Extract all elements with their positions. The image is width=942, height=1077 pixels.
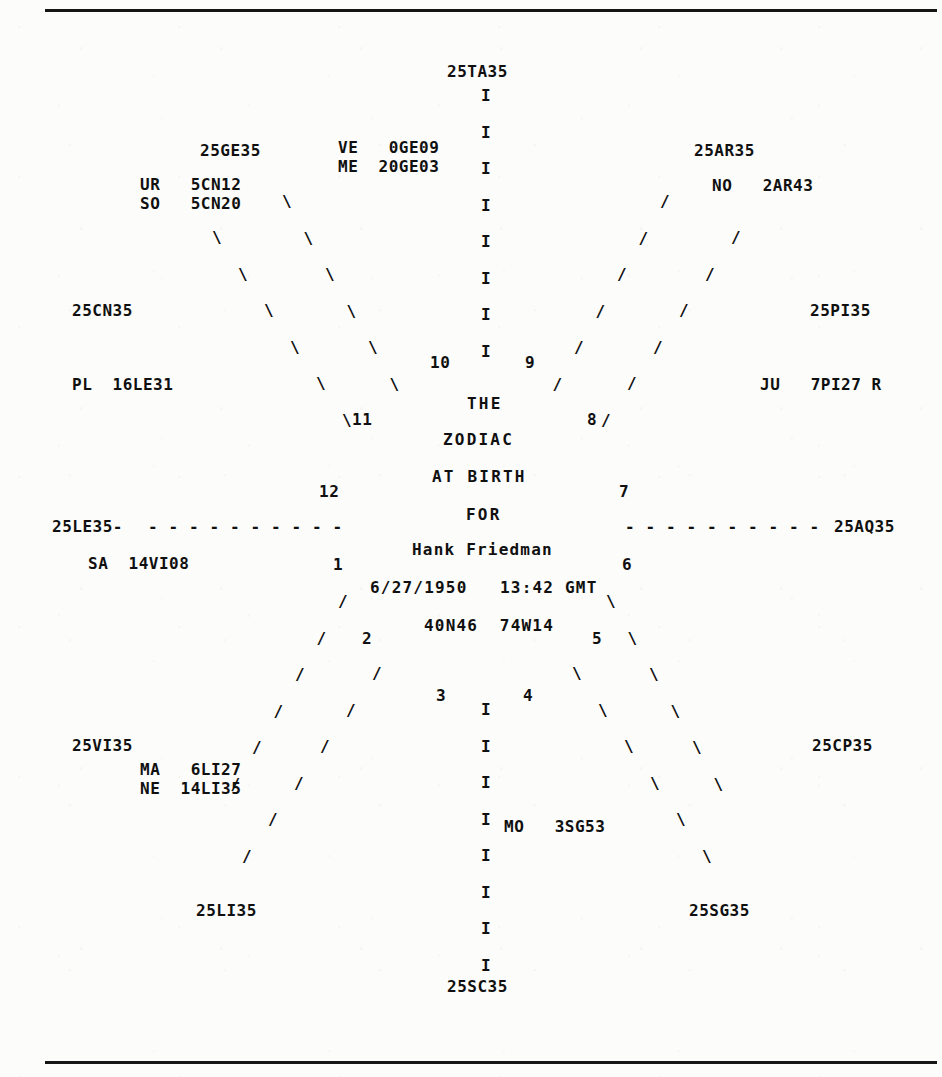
planet-label-sun: SO 5CN20 — [140, 196, 241, 212]
axis-glyph-dash-left: - — [148, 519, 158, 535]
ray-glyph-ul-inner: \ — [342, 413, 352, 429]
ray-glyph-ur-inner: / — [705, 267, 715, 283]
cusp-label-ic: 25SC35 — [447, 979, 508, 995]
ray-glyph-lr-outer: \ — [624, 739, 634, 755]
ray-glyph-ur-inner: / — [679, 303, 689, 319]
axis-glyph-vertical-bottom: I — [481, 885, 491, 901]
ray-glyph-ul-inner: \ — [212, 230, 222, 246]
planet-label-moon: MO 3SG53 — [504, 819, 605, 835]
ray-glyph-ll-outer: / — [320, 739, 330, 755]
ray-glyph-lr-inner: \ — [671, 704, 681, 720]
ray-glyph-ul-inner: \ — [290, 340, 300, 356]
planet-label-pluto: PL 16LE31 — [72, 377, 173, 393]
house-number-6: 6 — [622, 557, 632, 573]
ray-glyph-ur-outer: / — [617, 267, 627, 283]
ray-glyph-ur-inner: / — [601, 413, 611, 429]
ray-glyph-ll-outer: / — [346, 703, 356, 719]
ray-glyph-lr-outer: \ — [650, 776, 660, 792]
cusp-label-h11: 25GE35 — [200, 143, 261, 159]
planet-label-uranus: UR 5CN12 — [140, 177, 241, 193]
axis-glyph-dash-right: - — [707, 519, 717, 535]
ray-glyph-ul-inner: \ — [238, 267, 248, 283]
axis-glyph-vertical-bottom: I — [481, 702, 491, 718]
bottom-horizontal-rule — [45, 1061, 937, 1064]
axis-glyph-dash-right: - — [789, 519, 799, 535]
ray-glyph-lr-outer: \ — [572, 666, 582, 682]
axis-glyph-vertical-bottom: I — [481, 775, 491, 791]
cusp-label-h9: 25AR35 — [694, 143, 755, 159]
house-number-8: 8 — [587, 412, 597, 428]
ray-glyph-ul-outer: \ — [304, 231, 314, 247]
center-line-for: FOR — [466, 507, 502, 523]
center-birth-datetime: 6/27/1950 13:42 GMT — [370, 580, 598, 596]
ray-glyph-ll-inner: / — [274, 704, 284, 720]
ray-glyph-lr-outer: \ — [702, 849, 712, 865]
ray-glyph-ll-outer: / — [294, 776, 304, 792]
axis-glyph-vertical-top: I — [481, 234, 491, 250]
axis-glyph-vertical-top: I — [481, 125, 491, 141]
top-horizontal-rule — [45, 9, 937, 12]
planet-label-nnode: NO 2AR43 — [712, 178, 813, 194]
axis-glyph-dash-left: - — [312, 519, 322, 535]
ray-glyph-ll-outer: / — [242, 849, 252, 865]
cusp-label-h3: 25LI35 — [196, 903, 257, 919]
axis-glyph-dash-left: - — [292, 519, 302, 535]
center-native-name: Hank Friedman — [412, 542, 553, 558]
axis-glyph-dash-left: - — [230, 519, 240, 535]
axis-glyph-dash-left: - — [271, 519, 281, 535]
ray-glyph-ll-outer: / — [268, 812, 278, 828]
house-number-2: 2 — [362, 631, 372, 647]
planet-label-saturn: SA 14VI08 — [88, 556, 189, 572]
ray-glyph-ul-outer: \ — [325, 267, 335, 283]
ray-glyph-ur-outer: / — [574, 340, 584, 356]
house-number-9: 9 — [525, 355, 535, 371]
axis-glyph-dash-left: - — [251, 519, 261, 535]
center-line-the: THE — [467, 396, 503, 412]
axis-glyph-vertical-bottom: I — [481, 739, 491, 755]
planet-label-neptune: NE 14LI35 — [140, 781, 241, 797]
ray-glyph-lr-inner: \ — [714, 777, 724, 793]
house-number-4: 4 — [523, 688, 533, 704]
ray-glyph-ll-inner: / — [231, 777, 241, 793]
axis-glyph-dash-right: - — [666, 519, 676, 535]
ray-glyph-lr-inner: \ — [606, 594, 616, 610]
chart-page: 25TA35 25SC35 25GE35 25AR35 25CN35 25PI3… — [0, 0, 942, 1077]
planet-label-mars: MA 6LI27 — [140, 762, 241, 778]
axis-glyph-vertical-bottom: I — [481, 848, 491, 864]
ray-glyph-ur-outer: / — [639, 231, 649, 247]
planet-label-mercury: ME 20GE03 — [338, 159, 439, 175]
axis-glyph-dash-left: - — [169, 519, 179, 535]
center-line-zodiac: ZODIAC — [443, 432, 514, 448]
axis-glyph-vertical-bottom: I — [481, 812, 491, 828]
axis-glyph-dash-right: - — [687, 519, 697, 535]
cusp-label-h6: 25CP35 — [812, 738, 873, 754]
axis-glyph-dash-left: - — [333, 519, 343, 535]
house-number-7: 7 — [619, 484, 629, 500]
axis-glyph-dash-right: - — [748, 519, 758, 535]
ray-glyph-lr-outer: \ — [598, 703, 608, 719]
axis-glyph-vertical-top: I — [481, 88, 491, 104]
cusp-label-h5: 25SG35 — [689, 903, 750, 919]
ray-glyph-ul-outer: \ — [347, 304, 357, 320]
axis-glyph-vertical-top: I — [481, 307, 491, 323]
ray-glyph-lr-inner: \ — [628, 631, 638, 647]
house-number-5: 5 — [592, 631, 602, 647]
planet-label-venus: VE 0GE09 — [338, 140, 439, 156]
cusp-label-desc: 25AQ35 — [834, 519, 895, 535]
ray-glyph-lr-inner: \ — [649, 667, 659, 683]
ray-glyph-ll-inner: / — [295, 667, 305, 683]
cusp-label-h12: 25CN35 — [72, 303, 133, 319]
house-number-3: 3 — [436, 688, 446, 704]
axis-glyph-vertical-top: I — [481, 344, 491, 360]
cusp-label-h8: 25PI35 — [810, 303, 871, 319]
axis-glyph-dash-right: - — [810, 519, 820, 535]
axis-glyph-vertical-bottom: I — [481, 921, 491, 937]
axis-glyph-dash-left: - — [210, 519, 220, 535]
house-number-11: 11 — [352, 412, 372, 428]
planet-label-jupiter: JU 7PI27 R — [760, 377, 882, 393]
ray-glyph-ll-inner: / — [338, 594, 348, 610]
cusp-label-asc: 25LE35- — [52, 519, 123, 535]
ray-glyph-ul-inner: \ — [316, 376, 326, 392]
ray-glyph-ll-inner: / — [252, 740, 262, 756]
ray-glyph-ul-outer: \ — [368, 340, 378, 356]
